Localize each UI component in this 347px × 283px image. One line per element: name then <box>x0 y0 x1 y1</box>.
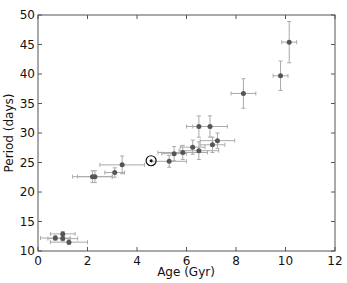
x-tick-label: 12 <box>327 254 342 268</box>
data-point <box>92 174 97 179</box>
data-point <box>60 236 65 241</box>
y-tick-label: 20 <box>20 185 35 199</box>
scatter-chart: 024681012101520253035404550 Age (Gyr) Pe… <box>0 0 347 283</box>
data-point <box>287 40 292 45</box>
y-tick-label: 35 <box>20 97 35 111</box>
plot-frame <box>38 15 335 251</box>
data-point <box>215 138 220 143</box>
data-point <box>210 142 215 147</box>
data-point <box>60 231 65 236</box>
axes: 024681012101520253035404550 <box>20 8 343 268</box>
data-markers <box>53 40 292 245</box>
x-tick-label: 4 <box>133 254 141 268</box>
y-tick-label: 30 <box>20 126 35 140</box>
y-tick-label: 15 <box>20 215 35 229</box>
data-point <box>172 151 177 156</box>
x-tick-label: 8 <box>232 254 240 268</box>
x-tick-label: 10 <box>278 254 293 268</box>
data-point <box>167 159 172 164</box>
data-point <box>180 150 185 155</box>
data-point <box>196 124 201 129</box>
x-axis-label: Age (Gyr) <box>157 265 215 279</box>
data-point <box>278 73 283 78</box>
error-bars <box>40 21 296 244</box>
y-tick-label: 45 <box>20 38 35 52</box>
y-tick-label: 40 <box>20 67 35 81</box>
sun-center-dot <box>150 159 153 162</box>
data-point <box>208 124 213 129</box>
x-tick-label: 0 <box>34 254 42 268</box>
data-point <box>53 236 58 241</box>
data-point <box>190 145 195 150</box>
y-tick-label: 10 <box>20 244 35 258</box>
data-point <box>120 162 125 167</box>
y-tick-label: 50 <box>20 8 35 22</box>
data-point <box>241 91 246 96</box>
data-point <box>112 170 117 175</box>
x-tick-label: 2 <box>84 254 92 268</box>
data-point <box>66 240 71 245</box>
y-tick-label: 25 <box>20 156 35 170</box>
data-point <box>196 148 201 153</box>
y-axis-label: Period (days) <box>2 94 16 173</box>
